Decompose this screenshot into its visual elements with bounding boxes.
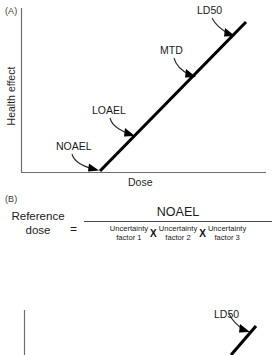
annotation-label-noael: NOAEL: [56, 140, 92, 152]
reference-dose-line1: Reference: [6, 210, 70, 224]
multiplication-symbol-2: X: [198, 228, 207, 239]
panel-b-label: (B): [5, 194, 17, 204]
noael-leader: [72, 154, 99, 172]
y-axis-title-health-effect: Health effect: [5, 60, 17, 132]
reference-dose-line2: dose: [6, 224, 70, 238]
panel-a-graphics: [0, 0, 275, 192]
reference-dose-term: Reference dose: [6, 210, 70, 237]
annotation-label-loael: LOAEL: [92, 104, 126, 116]
annotation-label-ld50: LD50: [197, 4, 222, 16]
annotation-label-mtd: MTD: [160, 44, 183, 56]
multiplication-symbol-1: X: [149, 228, 158, 239]
panel-c-annotation-label-ld50: LD50: [214, 308, 239, 320]
uncertainty-factor-3: Uncertainty factor 3: [208, 224, 246, 242]
fraction-denominator: Uncertainty factor 1 X Uncertainty facto…: [84, 222, 272, 242]
figure-root: (A) Dose Health effect NOAEL LOAEL MTD L…: [0, 0, 275, 355]
x-axis-title-dose: Dose: [128, 176, 153, 188]
panel-a-dose-response-chart: (A) Dose Health effect NOAEL LOAEL MTD L…: [0, 0, 275, 192]
uncertainty-factor-1: Uncertainty factor 1: [110, 224, 148, 242]
fraction-numerator-noael: NOAEL: [84, 205, 272, 221]
uncertainty-factor-1-line1: Uncertainty: [110, 224, 148, 233]
ld50-leader: [212, 18, 235, 37]
equation-fraction: NOAEL Uncertainty factor 1 X Uncertainty…: [84, 205, 272, 242]
panel-a-label: (A): [5, 6, 17, 16]
loael-leader: [110, 118, 135, 137]
mtd-leader: [174, 58, 196, 78]
equals-sign: =: [70, 222, 77, 236]
uncertainty-factor-2-line1: Uncertainty: [159, 224, 197, 233]
uncertainty-factor-2: Uncertainty factor 2: [159, 224, 197, 242]
uncertainty-factor-3-line2: factor 3: [208, 233, 246, 242]
uncertainty-factor-1-line2: factor 1: [110, 233, 148, 242]
uncertainty-factor-2-line2: factor 2: [159, 233, 197, 242]
uncertainty-factor-3-line1: Uncertainty: [208, 224, 246, 233]
